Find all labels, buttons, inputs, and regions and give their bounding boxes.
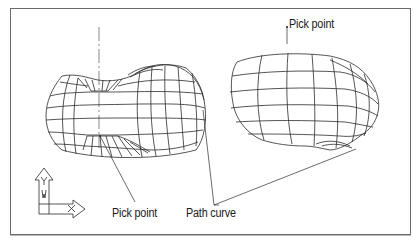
path-curve-leader-right xyxy=(214,149,356,205)
pick-point-label-top: Pick point xyxy=(289,17,334,31)
revolved-surface-left xyxy=(46,64,206,157)
ucs-y-glyph xyxy=(41,177,47,185)
pick-point-top-dot xyxy=(286,26,288,28)
path-curve-label: Path curve xyxy=(186,206,236,220)
ucs-w-glyph xyxy=(42,190,46,198)
figure-canvas: Pick point Pick point Path curve xyxy=(0,0,420,244)
path-extruded-surface-right xyxy=(230,53,379,150)
ucs-x-glyph xyxy=(68,205,75,212)
ucs-icon xyxy=(35,168,85,218)
path-curve-leader-left xyxy=(203,110,214,205)
pick-point-bottom-leader xyxy=(100,136,135,202)
pick-point-label-bottom: Pick point xyxy=(112,206,157,220)
